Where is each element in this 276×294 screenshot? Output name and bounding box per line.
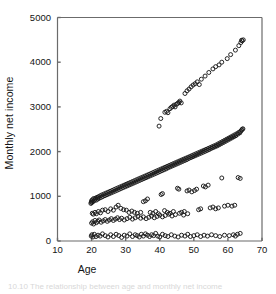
data-points: [89, 38, 245, 240]
data-point: [227, 234, 231, 238]
data-point: [233, 48, 237, 52]
data-point: [214, 234, 218, 238]
figure-caption: 10.10 The relationship between age and m…: [8, 281, 270, 292]
figure: 010002000300040005000 10203040506070 Mon…: [0, 0, 276, 294]
data-point: [229, 53, 233, 57]
series-high-income-band: [157, 38, 245, 128]
data-point: [199, 77, 203, 81]
data-point: [207, 70, 211, 74]
data-point: [225, 57, 229, 61]
data-point: [223, 233, 227, 237]
axes-lines: [58, 18, 263, 242]
data-point: [157, 124, 161, 128]
data-point: [218, 235, 222, 239]
data-point: [220, 176, 224, 180]
scatter-plot: [0, 0, 276, 294]
data-point: [159, 117, 163, 121]
data-point: [186, 212, 190, 216]
data-point: [210, 233, 214, 237]
series-mid-scatter-band: [90, 176, 242, 217]
data-point: [220, 60, 224, 64]
series-near-zero-band: [89, 231, 242, 239]
data-point: [203, 74, 207, 78]
axis-tick-marks: [58, 18, 263, 242]
series-main-income-band: [89, 127, 245, 206]
